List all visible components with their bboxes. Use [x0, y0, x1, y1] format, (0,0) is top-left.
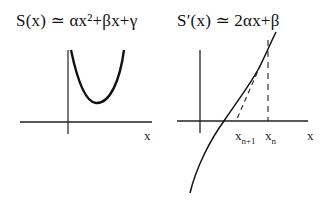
tangent-dashed-line — [236, 64, 261, 121]
left-x-label: x — [144, 128, 151, 143]
parabola-curve — [71, 50, 124, 103]
label-x-n: xn — [265, 128, 277, 146]
left-graph: x — [20, 50, 152, 143]
label-x-n-plus-1: xn+1 — [235, 128, 256, 146]
derivative-curve — [190, 32, 276, 193]
right-x-label: x — [307, 128, 314, 143]
right-graph: xn+1 xn x — [177, 32, 314, 193]
diagram-canvas: x xn+1 xn x — [0, 0, 328, 201]
